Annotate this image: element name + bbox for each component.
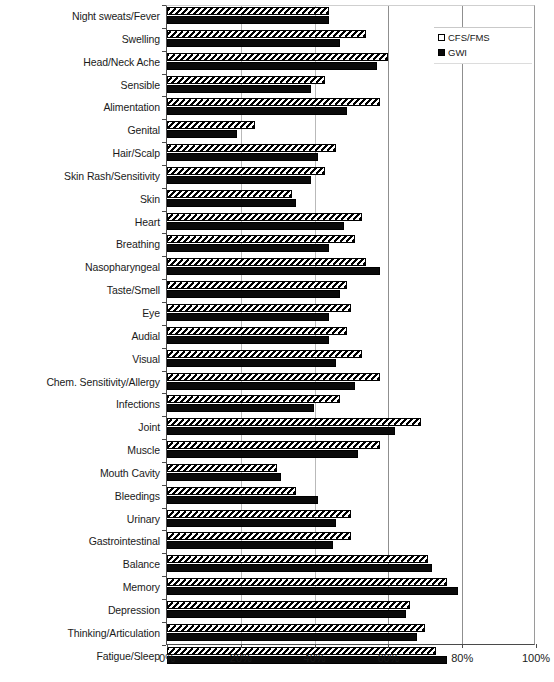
bar-group	[167, 120, 535, 141]
bar-group	[167, 349, 535, 370]
axis-tick	[162, 256, 166, 257]
bar-group	[167, 280, 535, 301]
axis-tick	[162, 485, 166, 486]
bar-group	[167, 394, 535, 415]
axis-tick	[162, 416, 166, 417]
axis-tick	[162, 165, 166, 166]
chart-row: Bleedings	[0, 485, 554, 508]
x-tick-mark	[315, 644, 316, 648]
bar-gwi	[167, 519, 336, 527]
bar-gwi	[167, 313, 329, 321]
x-tick-mark	[241, 644, 242, 648]
axis-tick	[162, 599, 166, 600]
chart-row: Mouth Cavity	[0, 462, 554, 485]
bar-group	[167, 486, 535, 507]
chart-row: Nasopharyngeal	[0, 256, 554, 279]
bar-cfs-fms	[167, 601, 410, 609]
x-tick-label: 60%	[377, 652, 399, 664]
category-label: Infections	[0, 393, 160, 416]
chart-row: Alimentation	[0, 96, 554, 119]
bar-cfs-fms	[167, 487, 296, 495]
axis-tick	[162, 645, 166, 646]
category-label: Eye	[0, 302, 160, 325]
bar-cfs-fms	[167, 213, 362, 221]
bar-cfs-fms	[167, 304, 351, 312]
axis-tick	[162, 279, 166, 280]
category-label: Thinking/Articulation	[0, 622, 160, 645]
bar-gwi	[167, 176, 311, 184]
chart-row: Eye	[0, 302, 554, 325]
bar-group	[167, 212, 535, 233]
category-label: Balance	[0, 553, 160, 576]
chart-row: Memory	[0, 576, 554, 599]
legend-swatch-gwi-icon	[438, 49, 445, 56]
bar-cfs-fms	[167, 327, 347, 335]
bar-gwi	[167, 587, 458, 595]
axis-tick	[162, 439, 166, 440]
chart-row: Audial	[0, 325, 554, 348]
bar-cfs-fms	[167, 235, 355, 243]
chart-row: Skin	[0, 188, 554, 211]
x-tick-label: 40%	[304, 652, 326, 664]
category-label: Heart	[0, 211, 160, 234]
x-tick-mark	[388, 644, 389, 648]
bar-group	[167, 97, 535, 118]
bar-group	[167, 166, 535, 187]
bar-cfs-fms	[167, 53, 388, 61]
x-tick-label: 0%	[159, 652, 175, 664]
category-label: Joint	[0, 416, 160, 439]
chart-row: Muscle	[0, 439, 554, 462]
axis-tick	[162, 211, 166, 212]
bar-cfs-fms	[167, 144, 336, 152]
bar-group	[167, 143, 535, 164]
bar-group	[167, 234, 535, 255]
category-label: Hair/Scalp	[0, 142, 160, 165]
x-tick-mark	[462, 644, 463, 648]
x-tick-label: 100%	[522, 652, 550, 664]
category-label: Skin Rash/Sensitivity	[0, 165, 160, 188]
chart-rows: Night sweats/FeverSwellingHead/Neck Ache…	[0, 5, 554, 667]
category-label: Mouth Cavity	[0, 462, 160, 485]
bar-cfs-fms	[167, 7, 329, 15]
bar-cfs-fms	[167, 258, 366, 266]
bar-gwi	[167, 222, 344, 230]
axis-tick	[162, 325, 166, 326]
bar-group	[167, 75, 535, 96]
axis-tick	[162, 622, 166, 623]
category-label: Sensible	[0, 74, 160, 97]
bar-gwi	[167, 244, 329, 252]
bar-cfs-fms	[167, 190, 292, 198]
legend-item-cfs-fms: CFS/FMS	[438, 30, 530, 45]
bar-gwi	[167, 267, 380, 275]
axis-tick	[162, 371, 166, 372]
bar-cfs-fms	[167, 98, 380, 106]
bar-gwi	[167, 85, 311, 93]
bar-gwi	[167, 427, 395, 435]
bar-group	[167, 326, 535, 347]
bar-cfs-fms	[167, 418, 421, 426]
bar-cfs-fms	[167, 121, 255, 129]
chart-row: Thinking/Articulation	[0, 622, 554, 645]
category-label: Bleedings	[0, 485, 160, 508]
chart-row: Sensible	[0, 74, 554, 97]
bar-cfs-fms	[167, 76, 325, 84]
chart-row: Taste/Smell	[0, 279, 554, 302]
category-label: Depression	[0, 599, 160, 622]
chart-row: Hair/Scalp	[0, 142, 554, 165]
bar-group	[167, 531, 535, 552]
axis-tick	[162, 74, 166, 75]
category-label: Chem. Sensitivity/Allergy	[0, 371, 160, 394]
chart-row: Gastrointestinal	[0, 530, 554, 553]
bar-cfs-fms	[167, 532, 351, 540]
bar-cfs-fms	[167, 30, 366, 38]
bar-gwi	[167, 336, 329, 344]
bar-group	[167, 372, 535, 393]
x-tick-mark	[536, 644, 537, 648]
bar-group	[167, 577, 535, 598]
legend-label-cfs-fms: CFS/FMS	[448, 32, 490, 43]
axis-tick	[162, 462, 166, 463]
bar-cfs-fms	[167, 167, 325, 175]
chart-row: Visual	[0, 348, 554, 371]
chart-row: Skin Rash/Sensitivity	[0, 165, 554, 188]
bar-cfs-fms	[167, 350, 362, 358]
